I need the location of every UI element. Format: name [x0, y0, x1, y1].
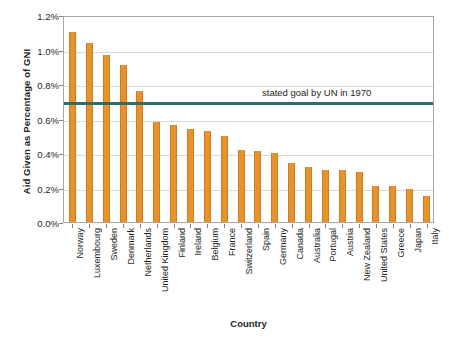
- x-axis-title-text: Country: [230, 318, 266, 329]
- bar: [136, 91, 143, 222]
- x-axis-tick-mark: [123, 224, 124, 228]
- x-axis-tick-mark: [275, 224, 276, 228]
- x-axis-tick-mark: [342, 224, 343, 228]
- bar: [406, 189, 413, 222]
- x-axis-category-label: Spain: [261, 228, 271, 251]
- x-axis-tick-mark: [393, 224, 394, 228]
- bar: [153, 122, 160, 222]
- x-axis-tick-mark: [224, 224, 225, 228]
- x-axis-category-label: Netherlands: [143, 228, 153, 277]
- x-axis-tick-mark: [190, 224, 191, 228]
- y-axis-tick-label: 0.2%: [7, 183, 59, 194]
- x-axis-tick-mark: [140, 224, 141, 228]
- x-axis-tick-mark: [241, 224, 242, 228]
- x-axis-category-label: United States: [379, 228, 389, 282]
- bar: [187, 129, 194, 222]
- y-axis-tick-mark: [59, 154, 63, 155]
- x-axis-category-label: Ireland: [193, 228, 203, 256]
- bar: [339, 170, 346, 222]
- bar: [69, 32, 76, 222]
- x-axis-tick-mark: [106, 224, 107, 228]
- x-axis-category-label: Greece: [396, 228, 406, 258]
- x-axis-tick-mark: [410, 224, 411, 228]
- y-axis-tick-mark: [59, 223, 63, 224]
- x-axis-tick-mark: [89, 224, 90, 228]
- x-axis-category-label: Norway: [75, 228, 85, 259]
- x-axis-category-label: Finland: [177, 228, 187, 258]
- x-axis-tick-mark: [325, 224, 326, 228]
- x-axis-title: Country: [0, 318, 449, 329]
- y-axis-tick-label: 1.2%: [7, 11, 59, 22]
- x-axis-category-label: Luxembourg: [92, 228, 102, 278]
- y-axis-tick-label: 0.0%: [7, 218, 59, 229]
- x-axis-category-label: Germany: [278, 228, 288, 265]
- y-axis-tick-label: 1.0%: [7, 45, 59, 56]
- y-axis-tick-label: 0.8%: [7, 80, 59, 91]
- bar: [170, 125, 177, 222]
- x-axis-category-label: Italy: [430, 228, 440, 245]
- bar: [271, 153, 278, 222]
- x-axis-tick-mark: [174, 224, 175, 228]
- bar: [120, 65, 127, 222]
- y-axis-tick-mark: [59, 120, 63, 121]
- x-axis-category-label: New Zealand: [362, 228, 372, 281]
- x-axis-category-label: Sweden: [109, 228, 119, 261]
- y-axis-tick-label: 0.6%: [7, 114, 59, 125]
- un-goal-line: [64, 102, 433, 105]
- x-axis-category-label: Belgium: [210, 228, 220, 261]
- bar: [103, 55, 110, 222]
- bar: [221, 136, 228, 222]
- bar: [204, 131, 211, 222]
- x-axis-tick-mark: [207, 224, 208, 228]
- un-goal-label: stated goal by UN in 1970: [262, 87, 371, 98]
- x-axis-tick-mark: [72, 224, 73, 228]
- bar: [288, 163, 295, 222]
- x-axis-category-label: Switzerland: [244, 228, 254, 275]
- x-axis-category-label: Portugal: [328, 228, 338, 262]
- y-axis-tick-mark: [59, 51, 63, 52]
- y-axis-tick-label: 0.4%: [7, 149, 59, 160]
- bar: [86, 43, 93, 222]
- bar: [389, 186, 396, 222]
- x-axis-tick-mark: [157, 224, 158, 228]
- x-axis-category-label: France: [227, 228, 237, 256]
- x-axis-tick-mark: [376, 224, 377, 228]
- plot-area: stated goal by UN in 1970: [63, 16, 434, 223]
- bar: [372, 186, 379, 222]
- x-axis-category-label: Japan: [413, 228, 423, 253]
- x-axis-tick-mark: [427, 224, 428, 228]
- x-axis-category-label: Australia: [312, 228, 322, 263]
- bar: [322, 170, 329, 222]
- bar: [423, 196, 430, 222]
- y-axis-tick-mark: [59, 189, 63, 190]
- bar: [356, 172, 363, 222]
- y-axis-tick-mark: [59, 85, 63, 86]
- aid-given-bar-chart: Aid Given as Percentage of GNI stated go…: [0, 0, 449, 345]
- bar: [254, 151, 261, 222]
- y-axis-tick-mark: [59, 16, 63, 17]
- x-axis-tick-mark: [309, 224, 310, 228]
- gridline: [64, 52, 433, 53]
- x-axis-category-label: United Kingdom: [160, 228, 170, 292]
- x-axis-tick-mark: [258, 224, 259, 228]
- bar: [238, 150, 245, 222]
- bar: [305, 167, 312, 222]
- x-axis-category-label: Austria: [345, 228, 355, 256]
- x-axis-tick-mark: [359, 224, 360, 228]
- x-axis-category-label: Denmark: [126, 228, 136, 265]
- x-axis-tick-mark: [292, 224, 293, 228]
- x-axis-category-label: Canada: [295, 228, 305, 260]
